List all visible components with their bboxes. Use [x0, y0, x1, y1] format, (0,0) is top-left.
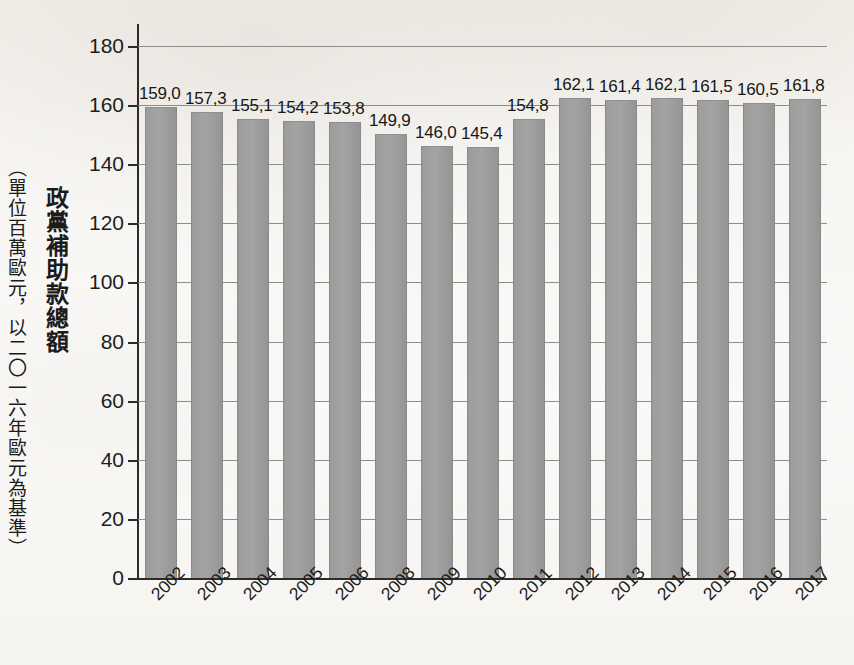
y-axis-unit-caption: （單位百萬歐元，以二〇一六年歐元為基準）: [6, 158, 25, 558]
bar[interactable]: [283, 121, 315, 578]
bar-value-label: 154,2: [277, 98, 319, 118]
bar-value-label: 145,4: [461, 124, 503, 144]
bar[interactable]: [467, 147, 499, 578]
bar-slot: 154,2: [275, 46, 321, 578]
bar-slot: 149,9: [367, 46, 413, 578]
bar-value-label: 161,8: [783, 76, 825, 96]
bar-value-label: 160,5: [737, 80, 779, 100]
bar-slot: 145,4: [459, 46, 505, 578]
y-axis-tick-label: 60: [101, 389, 124, 413]
bar-slot: 162,1: [551, 46, 597, 578]
bar[interactable]: [559, 98, 591, 578]
y-axis-tick-label: 140: [89, 152, 124, 176]
y-axis-tick-label: 180: [89, 34, 124, 58]
bar[interactable]: [697, 100, 729, 578]
bar-value-label: 153,8: [323, 99, 365, 119]
bar[interactable]: [375, 134, 407, 578]
bar[interactable]: [329, 122, 361, 578]
bar-slot: 161,5: [689, 46, 735, 578]
bar-value-label: 161,4: [599, 77, 641, 97]
bar[interactable]: [145, 107, 177, 578]
bar-slot: 155,1: [229, 46, 275, 578]
y-axis-tick-label: 0: [112, 566, 124, 590]
bar[interactable]: [237, 119, 269, 578]
y-axis-tick-label: 160: [89, 93, 124, 117]
bar[interactable]: [513, 119, 545, 578]
bar-value-label: 146,0: [415, 123, 457, 143]
bar-slot: 159,0: [137, 46, 183, 578]
bar-value-label: 155,1: [231, 96, 273, 116]
bar-slot: 160,5: [735, 46, 781, 578]
y-axis-tick-label: 20: [101, 507, 124, 531]
bar-slot: 153,8: [321, 46, 367, 578]
bars-group: 159,0157,3155,1154,2153,8149,9146,0145,4…: [137, 46, 827, 578]
bar-slot: 162,1: [643, 46, 689, 578]
bar-slot: 154,8: [505, 46, 551, 578]
bar-chart-plot-area: 020406080100120140160180 159,0157,3155,1…: [137, 46, 827, 578]
y-axis-tick-label: 120: [89, 211, 124, 235]
bar[interactable]: [191, 112, 223, 578]
y-axis-title: 政黨補助款總額: [44, 186, 67, 354]
bar-value-label: 162,1: [645, 75, 687, 95]
bar-value-label: 161,5: [691, 77, 733, 97]
bar-slot: 161,4: [597, 46, 643, 578]
bar[interactable]: [789, 99, 821, 578]
bar-slot: 146,0: [413, 46, 459, 578]
bar-value-label: 154,8: [507, 96, 549, 116]
bar-value-label: 157,3: [185, 89, 227, 109]
y-axis-tick-label: 40: [101, 448, 124, 472]
y-axis-tick-label: 80: [101, 330, 124, 354]
y-axis-tick-label: 100: [89, 270, 124, 294]
bar[interactable]: [605, 100, 637, 578]
bar-slot: 157,3: [183, 46, 229, 578]
bar-value-label: 162,1: [553, 75, 595, 95]
bar-slot: 161,8: [781, 46, 827, 578]
bar[interactable]: [743, 103, 775, 578]
y-axis-tickmark: [128, 578, 138, 580]
bar-value-label: 149,9: [369, 111, 411, 131]
bar-value-label: 159,0: [139, 84, 181, 104]
bar[interactable]: [651, 98, 683, 578]
bar[interactable]: [421, 146, 453, 579]
